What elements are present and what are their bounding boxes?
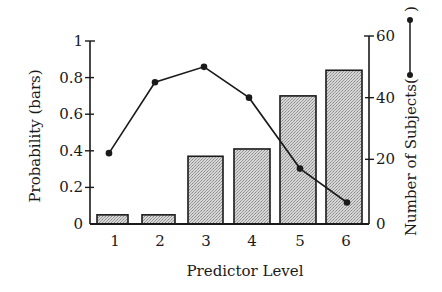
- x-tick-label: 6: [341, 232, 351, 250]
- line-point-1: [106, 150, 113, 157]
- left-tick-label: 0: [73, 215, 83, 233]
- bar-2: [142, 215, 175, 224]
- x-tick-label: 1: [110, 232, 120, 250]
- line-point-5: [297, 165, 304, 172]
- x-tick-label: 4: [247, 232, 257, 250]
- x-tick-label: 3: [201, 232, 211, 250]
- line-point-4: [246, 94, 253, 101]
- chart-container: 00.20.40.60.81 0204060 123456 Predictor …: [0, 0, 442, 292]
- x-axis: 123456: [90, 224, 369, 250]
- left-tick-label: 0.8: [59, 69, 83, 87]
- x-tick-label: 5: [295, 232, 305, 250]
- right-y-axis-title: Number of Subjects(: [402, 78, 420, 236]
- x-axis-title: Predictor Level: [187, 262, 304, 280]
- legend-line-marker-icon: [407, 17, 413, 78]
- left-tick-label: 0.4: [59, 142, 83, 160]
- right-tick-label: 60: [376, 27, 395, 45]
- left-y-axis-title: Probability (bars): [26, 69, 44, 202]
- line-point-3: [201, 64, 208, 71]
- right-tick-label: 20: [376, 150, 395, 168]
- left-tick-label: 0.2: [59, 178, 83, 196]
- left-y-axis: 00.20.40.60.81: [59, 32, 95, 233]
- bar-5: [280, 96, 316, 224]
- right-y-axis: 0204060: [364, 27, 395, 233]
- bar-3: [188, 156, 223, 224]
- line-point-2: [152, 79, 159, 86]
- left-tick-label: 0.6: [59, 105, 83, 123]
- bar-4: [234, 149, 270, 224]
- right-y-axis-title-close: ): [402, 6, 420, 12]
- x-tick-label: 2: [155, 232, 165, 250]
- right-tick-label: 0: [376, 215, 386, 233]
- right-y-axis-title-group: Number of Subjects( ): [402, 6, 420, 236]
- left-tick-label: 1: [73, 32, 83, 50]
- bar-1: [97, 215, 128, 224]
- bar-series: [97, 70, 362, 224]
- line-point-6: [344, 199, 351, 206]
- right-tick-label: 40: [376, 89, 395, 107]
